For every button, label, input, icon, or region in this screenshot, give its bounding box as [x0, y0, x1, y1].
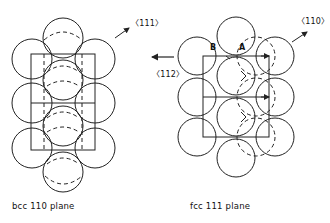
- fcc-atom: [217, 17, 255, 55]
- crystal-planes-diagram: [0, 0, 330, 223]
- bcc-atom: [12, 128, 52, 168]
- fcc-111-plane-figure: [178, 17, 307, 177]
- fcc-atom: [217, 98, 255, 136]
- bcc-unit-cell: [31, 54, 95, 150]
- fcc-atom: [217, 139, 255, 177]
- bcc-direction-label: 〈111〉: [131, 17, 163, 28]
- fcc-atom: [217, 57, 255, 95]
- fcc-direction-label: 〈110〉: [297, 15, 329, 26]
- bcc-direction-arrow: [115, 28, 129, 38]
- bcc-atom: [43, 18, 83, 58]
- fcc-caption: fcc 111 plane: [190, 201, 250, 211]
- bcc-atom: [12, 39, 52, 79]
- middle-direction-label: 〈112〉: [152, 68, 184, 79]
- fcc-point-a: A: [239, 43, 245, 52]
- fcc-direction-arrow: [292, 32, 307, 42]
- bcc-110-plane-figure: [12, 18, 129, 192]
- fcc-point-b: B: [210, 43, 216, 52]
- bcc-caption: bcc 110 plane: [12, 201, 75, 211]
